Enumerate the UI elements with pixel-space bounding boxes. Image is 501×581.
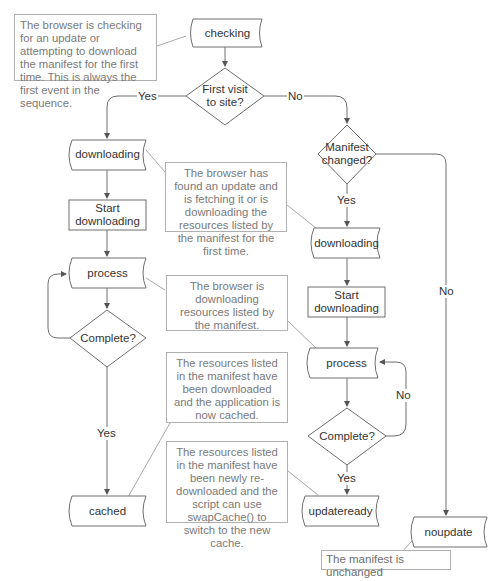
node-checking: checking xyxy=(193,27,262,40)
manifest-changed-line2: changed? xyxy=(314,154,380,167)
node-complete-left: Complete? xyxy=(70,332,146,345)
edge-label-complete-right-yes: Yes xyxy=(336,472,357,485)
node-downloading-right: downloading xyxy=(308,237,385,250)
start-right-line2: downloading xyxy=(308,302,385,315)
edge-label-first-visit-no: No xyxy=(287,90,304,103)
note-progress: The browser is downloading resources lis… xyxy=(166,275,288,331)
edge-first-visit-no xyxy=(264,96,347,123)
node-noupdate: noupdate xyxy=(410,526,487,539)
node-process-right: process xyxy=(308,357,385,370)
node-updateready: updateready xyxy=(302,505,379,518)
node-start-downloading-left: Start downloading xyxy=(69,202,146,228)
edge-label-complete-right-no: No xyxy=(395,389,412,402)
note-updateready: The resources listed in the manifest hav… xyxy=(166,441,288,523)
node-first-visit-line1: First visit xyxy=(190,83,260,96)
leader-cached xyxy=(128,423,170,497)
start-left-line1: Start xyxy=(69,202,146,215)
edge-label-first-visit-yes: Yes xyxy=(137,90,158,103)
node-complete-right: Complete? xyxy=(308,430,386,443)
start-right-line1: Start xyxy=(308,289,385,302)
node-cached: cached xyxy=(69,505,146,518)
node-manifest-changed: Manifest changed? xyxy=(314,141,380,167)
leader-process-left xyxy=(146,278,165,290)
edge-label-complete-left-yes: Yes xyxy=(96,427,117,440)
node-first-visit-line2: to site? xyxy=(190,96,260,109)
edge-label-manifest-changed-yes: Yes xyxy=(336,194,357,207)
note-checking: The browser is checking for an update or… xyxy=(14,14,157,81)
node-first-visit: First visit to site? xyxy=(190,83,260,109)
node-downloading-left: downloading xyxy=(69,148,146,161)
edge-complete-left-loop xyxy=(48,274,70,338)
leader-downloading-right xyxy=(287,205,316,228)
leader-process-right xyxy=(288,321,318,350)
note-noupdate: The manifest is unchanged xyxy=(321,550,451,570)
start-left-line2: downloading xyxy=(69,215,146,228)
edge-manifest-changed-no xyxy=(376,154,446,515)
leader-downloading-left xyxy=(146,150,165,172)
leader-checking xyxy=(157,36,186,46)
edge-label-manifest-changed-no: No xyxy=(438,285,455,298)
node-process-left: process xyxy=(69,267,146,280)
note-downloading: The browser has found an update and is f… xyxy=(165,162,287,232)
manifest-changed-line1: Manifest xyxy=(314,141,380,154)
note-cached: The resources listed in the manifest hav… xyxy=(166,352,288,423)
leader-updateready xyxy=(288,471,318,495)
node-start-downloading-right: Start downloading xyxy=(308,289,385,315)
